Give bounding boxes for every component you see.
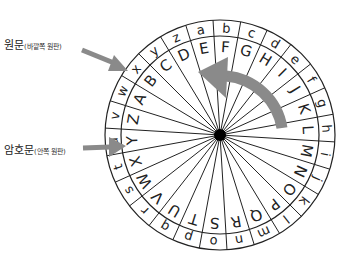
inner-letter: Z: [124, 112, 144, 125]
outer-letter: f: [304, 74, 319, 86]
center-hub: [214, 129, 226, 141]
plaintext-pointer-arrow-icon: [82, 50, 128, 71]
spoke-line: [122, 76, 220, 135]
inner-letter: S: [209, 214, 220, 233]
inner-letter: Q: [247, 205, 265, 226]
spoke-line: [160, 37, 220, 135]
inner-letter: C: [156, 55, 175, 76]
outer-letter: i: [318, 151, 333, 157]
inner-letter: M: [297, 143, 317, 159]
outer-letter: z: [170, 29, 183, 46]
spoke-line: [220, 135, 227, 250]
outer-letter: o: [209, 234, 218, 249]
outer-letter: j: [310, 173, 326, 183]
outer-letter: h: [319, 124, 334, 133]
inner-letter: L: [299, 125, 318, 135]
outer-letter: a: [195, 22, 206, 38]
inner-letter: R: [229, 212, 243, 232]
outer-letter: l: [280, 212, 292, 226]
inner-letter: G: [238, 41, 254, 62]
outer-letter: r: [137, 203, 152, 218]
inner-letter: X: [126, 154, 146, 169]
inner-letter: K: [294, 101, 314, 117]
inner-letter: T: [186, 209, 202, 229]
inner-letter: A: [129, 90, 150, 107]
inner-letter: E: [198, 39, 211, 58]
rotation-arrow-icon: [198, 57, 282, 128]
spoke-line: [220, 135, 280, 233]
inner-letter: Y: [123, 134, 142, 146]
spoke-line: [129, 135, 220, 206]
inner-letter: P: [265, 194, 283, 214]
inner-letter: I: [274, 65, 290, 81]
cipher-wheel: abcdefghijklmnopqrstuvwxyz EFGHIJKLMNOPQ…: [0, 0, 345, 267]
inner-letter: H: [256, 49, 275, 70]
inner-letter: J: [286, 82, 304, 96]
inner-letter: U: [165, 200, 184, 221]
outer-letter: p: [182, 229, 194, 246]
inner-letter: N: [290, 162, 311, 180]
inner-letter: B: [140, 71, 161, 90]
outer-letter: s: [120, 183, 136, 197]
outer-letter: n: [234, 232, 245, 248]
outer-letter: c: [246, 25, 257, 41]
outer-letter: v: [107, 110, 123, 121]
outer-letter: t: [110, 162, 126, 171]
outer-letter: g: [314, 97, 331, 109]
inner-letter: D: [175, 44, 193, 65]
inner-letter: F: [220, 38, 230, 56]
spoke-line: [149, 135, 220, 226]
outer-letter: b: [222, 20, 231, 35]
